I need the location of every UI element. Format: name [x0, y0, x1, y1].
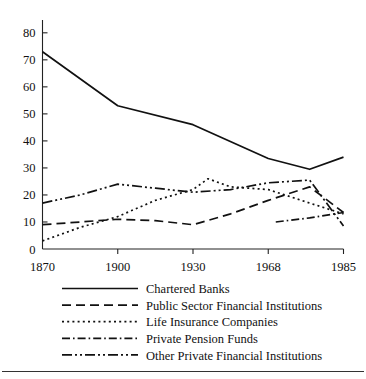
y-tick-label: 20	[23, 188, 36, 202]
series-line-private-pension-funds	[276, 213, 344, 222]
series-lines	[43, 52, 344, 241]
y-tick-label: 70	[23, 53, 36, 67]
y-tick-label: 60	[23, 80, 36, 94]
legend-label-life-insurance-companies: Life Insurance Companies	[146, 315, 278, 329]
x-tick-label: 1900	[105, 260, 130, 274]
line-chart: 01020304050607080 18701900193019681985 C…	[0, 0, 366, 379]
series-line-chartered-banks	[43, 52, 344, 170]
y-axis: 01020304050607080	[23, 20, 48, 257]
x-tick-label: 1968	[256, 260, 281, 274]
y-tick-label: 40	[23, 134, 36, 148]
y-tick-label: 80	[23, 26, 36, 40]
legend-label-other-private-financial-institutions: Other Private Financial Institutions	[146, 349, 322, 363]
x-tick-label: 1870	[30, 260, 55, 274]
x-tick-label: 1930	[181, 260, 206, 274]
chart-legend: Chartered BanksPublic Sector Financial I…	[62, 282, 322, 362]
y-tick-label: 50	[23, 107, 36, 121]
legend-label-public-sector-financial-institutions: Public Sector Financial Institutions	[146, 299, 322, 313]
series-line-life-insurance-companies	[43, 179, 344, 241]
chart-figure: 01020304050607080 18701900193019681985 C…	[0, 0, 366, 379]
y-tick-label: 30	[23, 161, 36, 175]
x-axis: 18701900193019681985	[30, 249, 356, 274]
legend-label-private-pension-funds: Private Pension Funds	[146, 332, 258, 346]
y-tick-label: 10	[23, 215, 36, 229]
legend-label-chartered-banks: Chartered Banks	[146, 282, 230, 296]
x-tick-label: 1985	[331, 260, 356, 274]
y-tick-label: 0	[29, 243, 35, 257]
